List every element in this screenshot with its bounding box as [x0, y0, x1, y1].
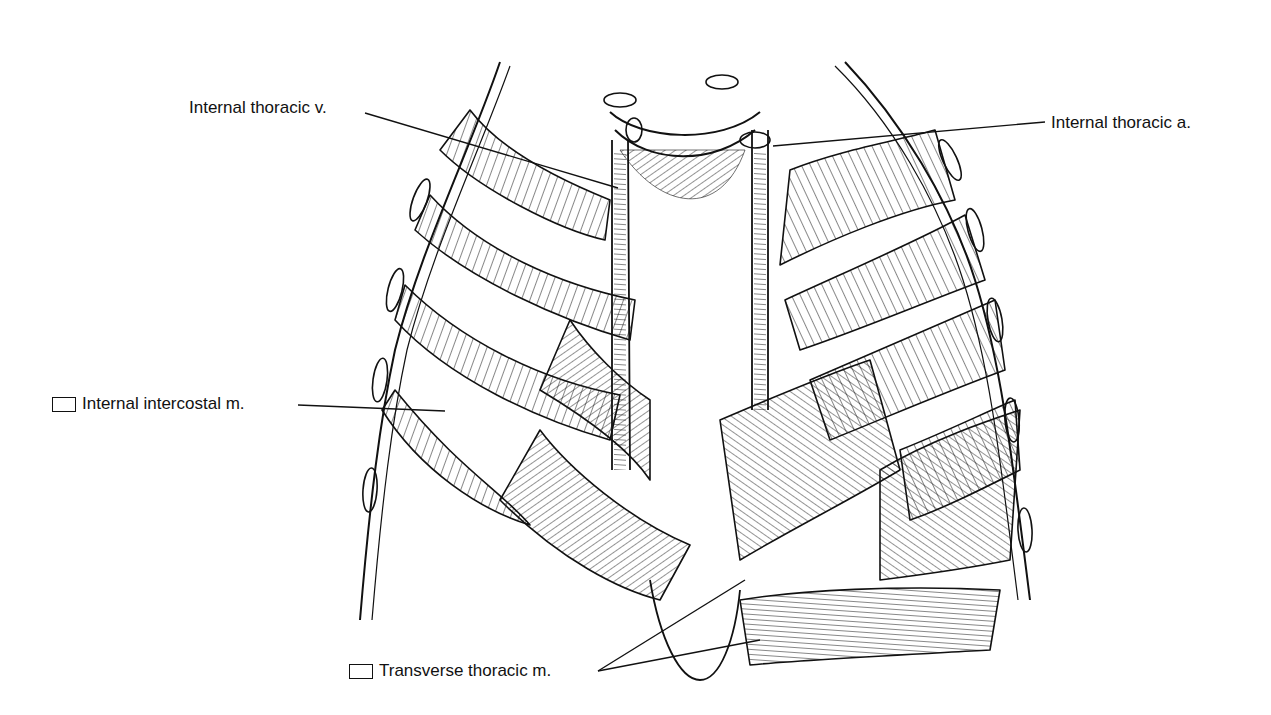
label-internal-intercostal-m: Internal intercostal m.	[52, 394, 245, 414]
leader-internal-intercostal-m	[298, 405, 445, 411]
color-key-checkbox[interactable]	[349, 664, 373, 679]
label-text: Internal thoracic a.	[1051, 113, 1191, 133]
label-internal-thoracic-v: Internal thoracic v.	[189, 98, 327, 118]
color-key-checkbox[interactable]	[52, 397, 76, 412]
label-internal-thoracic-a: Internal thoracic a.	[1051, 113, 1191, 133]
label-text: Transverse thoracic m.	[379, 661, 551, 681]
label-text: Internal intercostal m.	[82, 394, 245, 414]
label-transverse-thoracic-m: Transverse thoracic m.	[349, 661, 551, 681]
label-text: Internal thoracic v.	[189, 98, 327, 118]
